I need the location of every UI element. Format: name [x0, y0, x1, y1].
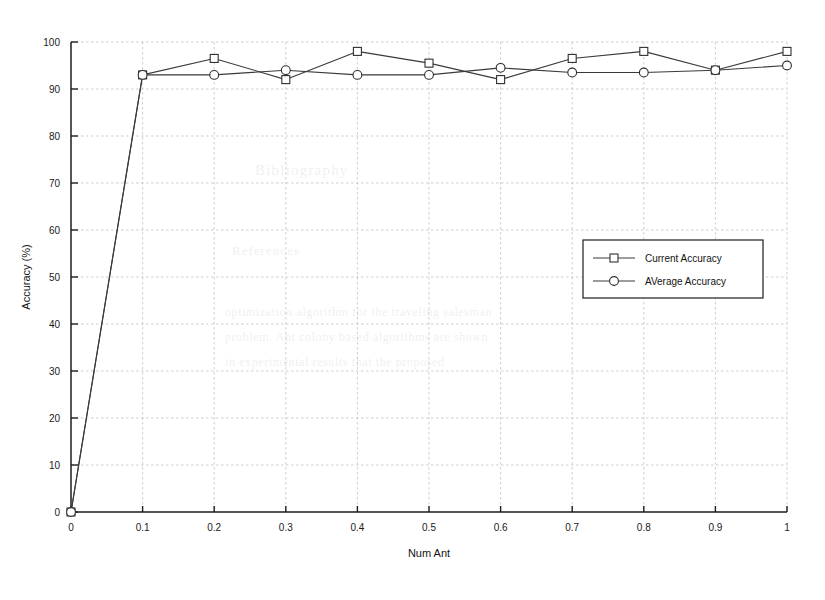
- legend-box: [583, 240, 763, 298]
- x-tick-label: 0.4: [350, 522, 364, 533]
- x-tick-label: 0.3: [279, 522, 293, 533]
- data-point-marker: [425, 59, 433, 67]
- x-tick-label: 0.9: [708, 522, 722, 533]
- x-tick-label: 0.6: [494, 522, 508, 533]
- legend-marker-square: [610, 254, 618, 262]
- data-point-marker: [353, 47, 361, 55]
- y-tick-label: 40: [49, 319, 61, 330]
- data-point-marker: [568, 54, 576, 62]
- legend-marker-circle: [610, 277, 619, 286]
- x-tick-label: 0.8: [637, 522, 651, 533]
- data-point-marker: [640, 47, 648, 55]
- y-tick-label: 30: [49, 366, 61, 377]
- y-axis-title: Accuracy (%): [20, 244, 32, 309]
- x-tick-label: 0.7: [565, 522, 579, 533]
- data-point-marker: [138, 71, 147, 80]
- chart-figure: 010203040506070809010000.10.20.30.40.50.…: [0, 0, 825, 600]
- data-point-marker: [783, 61, 792, 70]
- y-tick-label: 100: [43, 37, 60, 48]
- y-tick-label: 0: [54, 507, 60, 518]
- x-tick-label: 1: [784, 522, 790, 533]
- x-tick-label: 0.2: [207, 522, 221, 533]
- data-point-marker: [67, 508, 76, 517]
- y-tick-label: 60: [49, 225, 61, 236]
- data-point-marker: [639, 68, 648, 77]
- data-point-marker: [282, 76, 290, 84]
- data-point-marker: [711, 66, 720, 75]
- legend-label: Current Accuracy: [645, 253, 722, 264]
- legend-label: AVerage Accuracy: [645, 276, 726, 287]
- data-point-marker: [210, 71, 219, 80]
- y-tick-label: 90: [49, 84, 61, 95]
- y-tick-label: 70: [49, 178, 61, 189]
- y-tick-label: 10: [49, 460, 61, 471]
- data-point-marker: [497, 76, 505, 84]
- data-point-marker: [281, 66, 290, 75]
- line-chart: 010203040506070809010000.10.20.30.40.50.…: [0, 0, 825, 600]
- x-tick-label: 0.5: [422, 522, 436, 533]
- y-tick-label: 20: [49, 413, 61, 424]
- data-point-marker: [353, 71, 362, 80]
- x-tick-label: 0: [68, 522, 74, 533]
- y-tick-label: 50: [49, 272, 61, 283]
- x-tick-label: 0.1: [136, 522, 150, 533]
- y-tick-label: 80: [49, 131, 61, 142]
- x-axis-title: Num Ant: [408, 547, 450, 559]
- data-point-marker: [783, 47, 791, 55]
- data-point-marker: [568, 68, 577, 77]
- data-point-marker: [496, 63, 505, 72]
- data-point-marker: [425, 71, 434, 80]
- chart-legend: Current AccuracyAVerage Accuracy: [583, 240, 763, 298]
- data-point-marker: [210, 54, 218, 62]
